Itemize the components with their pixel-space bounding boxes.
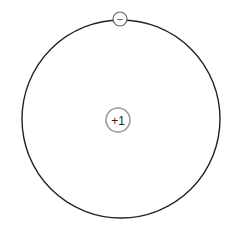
electron: − — [113, 12, 127, 26]
nucleus-charge-label: +1 — [111, 114, 125, 128]
electron-charge-label: − — [117, 13, 123, 25]
atom-diagram: +1 − — [0, 0, 236, 231]
nucleus: +1 — [106, 108, 130, 132]
